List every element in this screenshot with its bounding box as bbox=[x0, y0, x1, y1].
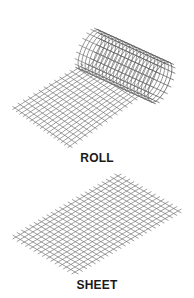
wire bbox=[42, 191, 151, 256]
wire bbox=[46, 194, 155, 259]
sheet-mesh bbox=[13, 174, 182, 274]
wire-mesh-diagram bbox=[0, 0, 194, 298]
roll-label: ROLL bbox=[0, 151, 194, 165]
roll-cylinder-mesh bbox=[73, 27, 176, 106]
sheet-label: SHEET bbox=[0, 278, 194, 292]
wire bbox=[38, 189, 147, 254]
